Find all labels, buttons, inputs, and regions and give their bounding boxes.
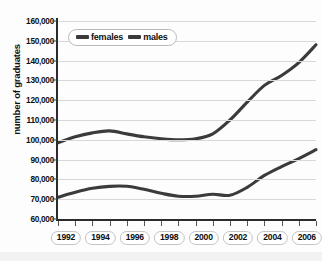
y-axis-tick-mark xyxy=(52,21,57,22)
x-axis-year-label: 2006 xyxy=(292,231,322,245)
x-axis-tick-mark xyxy=(282,221,283,226)
legend-item-females: females xyxy=(76,32,123,42)
y-axis-tick-mark xyxy=(52,139,57,140)
x-axis-tick-mark xyxy=(316,221,317,226)
x-axis-tick-mark xyxy=(299,221,300,226)
x-axis-tick-mark xyxy=(178,221,179,226)
series-line-females xyxy=(58,45,316,143)
legend-label-males: males xyxy=(143,32,168,42)
gridline xyxy=(58,160,316,161)
y-axis-tick-label: 120,000 xyxy=(10,95,54,105)
y-axis-tick-label: 130,000 xyxy=(10,75,54,85)
line-chart: number of graduates 60,00070,00080,00090… xyxy=(0,0,322,261)
series-line-males xyxy=(58,150,316,198)
x-axis-tick-mark xyxy=(161,221,162,226)
gridline xyxy=(58,100,316,101)
y-axis-tick-mark xyxy=(52,219,57,220)
x-axis-year-label: 1996 xyxy=(120,231,150,245)
y-axis-tick-mark xyxy=(52,179,57,180)
plot-area xyxy=(58,21,316,219)
page-edge xyxy=(0,252,322,261)
y-axis-tick-labels: 60,00070,00080,00090,000100,000110,00012… xyxy=(8,0,54,261)
y-axis-tick-mark xyxy=(52,80,57,81)
gridline xyxy=(58,61,316,62)
x-axis-tick-mark xyxy=(230,221,231,226)
x-axis-tick-mark xyxy=(127,221,128,226)
chart-legend: females males xyxy=(68,29,177,46)
y-axis-tick-label: 100,000 xyxy=(10,135,54,145)
x-axis-year-label: 2004 xyxy=(257,231,287,245)
y-axis-tick-label: 70,000 xyxy=(10,194,54,204)
y-axis-tick-label: 90,000 xyxy=(10,155,54,165)
y-axis-tick-mark xyxy=(52,199,57,200)
y-axis-tick-label: 160,000 xyxy=(10,16,54,26)
gridline xyxy=(58,179,316,180)
x-axis-line xyxy=(56,219,316,221)
x-axis-tick-mark xyxy=(75,221,76,226)
x-axis-year-label: 2000 xyxy=(188,231,218,245)
y-axis-tick-label: 60,000 xyxy=(10,214,54,224)
x-axis-tick-mark xyxy=(264,221,265,226)
gridline xyxy=(58,199,316,200)
x-axis-tick-mark xyxy=(144,221,145,226)
y-axis-tick-mark xyxy=(52,159,57,160)
gridline xyxy=(58,80,316,81)
x-axis-year-label: 1998 xyxy=(154,231,184,245)
legend-label-females: females xyxy=(91,32,123,42)
y-axis-tick-label: 110,000 xyxy=(10,115,54,125)
y-axis-tick-mark xyxy=(52,40,57,41)
x-axis-year-label: 1992 xyxy=(51,231,81,245)
y-axis-tick-label: 140,000 xyxy=(10,56,54,66)
chart-title-partial xyxy=(60,0,260,6)
y-axis-tick-label: 150,000 xyxy=(10,36,54,46)
x-axis-tick-mark xyxy=(92,221,93,226)
x-axis-tick-mark xyxy=(110,221,111,226)
y-axis-tick-mark xyxy=(52,60,57,61)
gridline xyxy=(58,21,316,22)
y-axis-tick-mark xyxy=(52,120,57,121)
x-axis-tick-mark xyxy=(247,221,248,226)
gridline xyxy=(58,140,316,141)
x-axis-tick-mark xyxy=(213,221,214,226)
legend-swatch-males xyxy=(128,35,141,38)
y-axis-tick-label: 80,000 xyxy=(10,174,54,184)
x-axis-tick-mark xyxy=(196,221,197,226)
legend-item-males: males xyxy=(128,32,168,42)
x-axis-tick-mark xyxy=(58,221,59,226)
legend-swatch-females xyxy=(76,35,89,38)
x-axis-year-label: 1994 xyxy=(85,231,115,245)
y-axis-tick-mark xyxy=(52,100,57,101)
x-axis-year-label: 2002 xyxy=(223,231,253,245)
gridline xyxy=(58,120,316,121)
